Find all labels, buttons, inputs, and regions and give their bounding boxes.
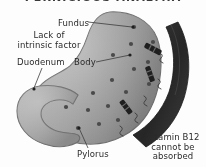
lack-line-2: intrinsic factor (18, 40, 81, 50)
annotation-vitamin-b12-not-absorbed: Vitamin B12 cannot be absorbed (143, 133, 203, 162)
b12-line-2: cannot be (151, 142, 194, 152)
annotation-lack-of-intrinsic-factor: Lack of intrinsic factor (14, 31, 84, 50)
label-fundus: Fundus (58, 19, 89, 29)
label-body: Body (74, 58, 96, 68)
pernicious-anaemia-figure: PERNICIOUS ANAEMIA (0, 0, 206, 167)
lack-line-1: Lack of (33, 30, 64, 40)
b12-line-3: absorbed (153, 151, 194, 161)
label-duodenum: Duodenum (17, 58, 65, 68)
label-pylorus: Pylorus (77, 150, 109, 160)
b12-line-1: Vitamin B12 (146, 132, 199, 142)
